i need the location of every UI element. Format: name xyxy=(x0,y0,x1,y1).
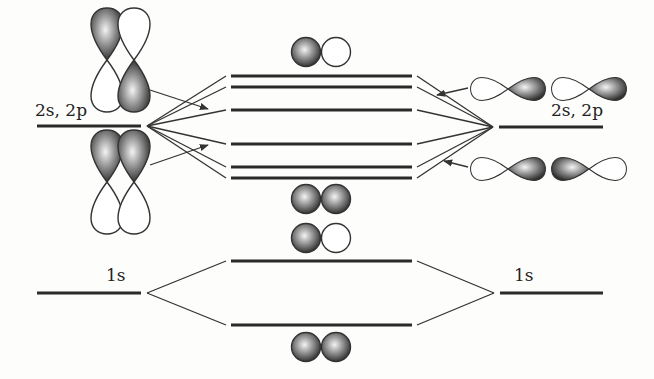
s-orbital-bonding-bottom-icon xyxy=(292,333,351,362)
left-correlation-lines xyxy=(147,76,226,325)
arrow-top-right xyxy=(437,88,468,95)
valence-mo-levels xyxy=(231,76,412,178)
left-core-label: 1s xyxy=(106,265,126,285)
s-orbital-antibonding-top-icon xyxy=(292,38,351,67)
s-orbital-bonding-middle-icon xyxy=(292,185,351,214)
left-valence-label: 2s, 2p xyxy=(35,100,87,120)
right-valence-label: 2s, 2p xyxy=(551,100,603,120)
s-orbital-antibonding-middle-icon xyxy=(292,224,351,253)
core-mo-levels xyxy=(231,261,412,325)
arrow-bottom-left xyxy=(150,145,208,165)
right-correlation-lines xyxy=(417,76,494,325)
p-orbital-pair-top-left-icon xyxy=(91,8,150,112)
mo-diagram: 2s, 2p 2s, 2p 1s 1s xyxy=(0,0,654,379)
p-orbital-pair-bottom-left-icon xyxy=(91,130,150,234)
p-orbital-pair-top-right-icon xyxy=(471,77,627,100)
p-orbital-pair-bottom-right-icon xyxy=(471,157,627,180)
arrow-bottom-right xyxy=(444,161,468,167)
right-core-label: 1s xyxy=(514,265,534,285)
